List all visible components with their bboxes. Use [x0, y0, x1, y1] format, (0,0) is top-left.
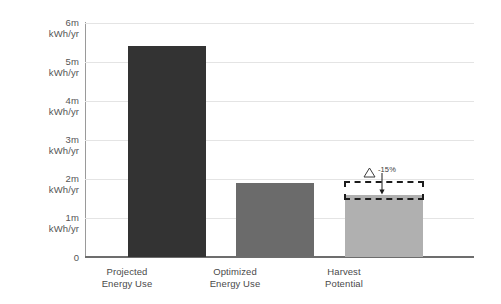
y-tick-value: 3m: [3, 134, 79, 145]
y-tick-value: 6m: [3, 17, 79, 28]
y-tick-value: 5m: [3, 56, 79, 67]
x-axis-label-projected-energy-use: Projected Energy Use: [88, 266, 166, 290]
y-tick-unit: kWh/yr: [3, 106, 79, 117]
y-tick-label-zero: 0: [3, 252, 79, 263]
x-label-line-2: Potential: [305, 278, 383, 290]
y-tick-label-2m: 2m kWh/yr: [3, 173, 79, 195]
x-label-line-1: Harvest: [305, 266, 383, 278]
x-label-line-1: Optimized: [196, 266, 274, 278]
gridline-6m: [85, 23, 474, 24]
y-axis-tick-labels: 6m kWh/yr 5m kWh/yr 4m kWh/yr 3m kWh/yr …: [0, 0, 79, 304]
y-tick-label-3m: 3m kWh/yr: [3, 134, 79, 156]
y-tick-value: 2m: [3, 173, 79, 184]
y-tick-unit: kWh/yr: [3, 67, 79, 78]
bar-optimized-energy-use[interactable]: [236, 183, 314, 257]
x-axis-label-optimized-energy-use: Optimized Energy Use: [196, 266, 274, 290]
y-tick-unit: kWh/yr: [3, 145, 79, 156]
x-axis-label-harvest-potential: Harvest Potential: [305, 266, 383, 290]
y-tick-label-1m: 1m kWh/yr: [3, 212, 79, 234]
x-label-line-1: Projected: [88, 266, 166, 278]
bar-projected-energy-use[interactable]: [128, 46, 206, 257]
x-label-line-2: Energy Use: [196, 278, 274, 290]
bar-chart: 6m kWh/yr 5m kWh/yr 4m kWh/yr 3m kWh/yr …: [0, 0, 501, 304]
plot-area: -15%: [85, 23, 474, 257]
bar-harvest-potential[interactable]: [345, 195, 423, 257]
y-tick-value: 4m: [3, 95, 79, 106]
y-tick-unit: kWh/yr: [3, 184, 79, 195]
annotation-down-arrow-icon: [378, 173, 386, 199]
y-tick-label-6m: 6m kWh/yr: [3, 17, 79, 39]
y-tick-label-5m: 5m kWh/yr: [3, 56, 79, 78]
y-tick-label-4m: 4m kWh/yr: [3, 95, 79, 117]
x-label-line-2: Energy Use: [88, 278, 166, 290]
y-tick-unit: kWh/yr: [3, 28, 79, 39]
y-tick-value: 1m: [3, 212, 79, 223]
annotation-triangle-icon: [363, 164, 376, 182]
y-tick-unit: kWh/yr: [3, 223, 79, 234]
